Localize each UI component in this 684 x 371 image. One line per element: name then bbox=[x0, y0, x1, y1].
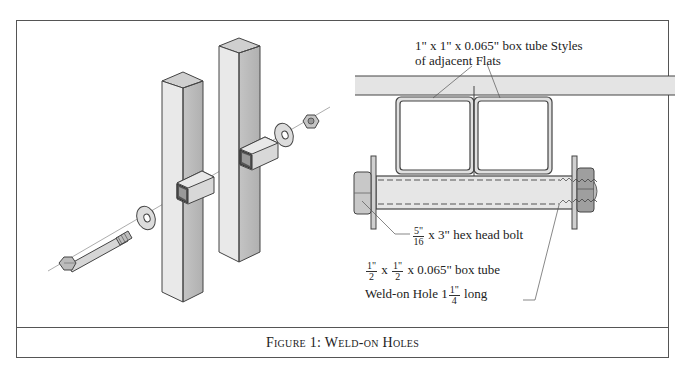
top-flat-bar bbox=[355, 76, 675, 95]
hex-nut bbox=[303, 115, 319, 128]
bolt-diameter-fraction: 5"16 bbox=[413, 226, 424, 247]
box-tube-right bbox=[474, 97, 552, 174]
tube-length-fraction: 1"4 bbox=[449, 285, 460, 306]
exploded-isometric-view bbox=[48, 38, 330, 302]
tube-width-fraction: 1"2 bbox=[366, 261, 377, 282]
callout-weld-on-tube: 1"2 x 1"2 x 0.065" box tube Weld-on Hole… bbox=[365, 261, 500, 306]
weld-on-tube-section bbox=[376, 176, 573, 209]
tube-height-fraction: 1"2 bbox=[392, 261, 403, 282]
nut-section bbox=[573, 168, 597, 212]
callout-box-tube-flats: 1" x 1" x 0.065" box tube Styles of adja… bbox=[415, 38, 583, 68]
hex-head-bolt bbox=[59, 231, 132, 272]
callout-hex-bolt: 5"16 x 3" hex head bolt bbox=[412, 226, 523, 247]
washer-edge-right bbox=[572, 156, 577, 229]
washer-left bbox=[133, 204, 158, 233]
callout-box-tube-line1: 1" x 1" x 0.065" box tube Styles bbox=[415, 38, 583, 53]
box-tube-left bbox=[396, 97, 474, 174]
callout-box-tube-line2: of adjacent Flats bbox=[415, 53, 583, 68]
bolt-size-text: x 3" hex head bolt bbox=[428, 227, 523, 242]
washer-edge-left bbox=[371, 156, 376, 229]
